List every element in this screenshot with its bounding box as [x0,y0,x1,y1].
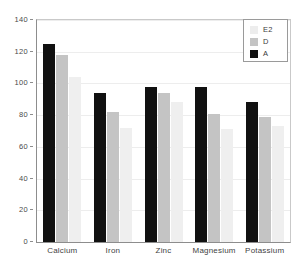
bar-zinc-d [158,93,170,242]
bar-magnesium-a [195,87,207,242]
x-tick-label: Iron [106,246,121,255]
y-tick-mark [30,51,33,52]
y-tick-label: 100 [0,78,28,87]
y-tick-label: 120 [0,46,28,55]
y-tick-label: 140 [0,15,28,24]
legend-item-a[interactable]: A [250,48,287,59]
x-tick-label: Zinc [156,246,172,255]
bar-potassium-a [246,102,258,242]
bar-iron-d [107,112,119,242]
legend-item-d[interactable]: D [250,36,287,47]
bar-calcium-d [56,55,68,242]
bar-group [195,20,233,242]
y-tick-mark [30,82,33,83]
bar-magnesium-d [208,114,220,242]
bar-group [43,20,81,242]
legend-label: A [263,50,268,58]
bar-magnesium-e2 [221,129,233,242]
y-tick-mark [30,209,33,210]
y-tick-mark [30,146,33,147]
y-tick-label: 80 [0,110,28,119]
y-tick-label: 0 [0,237,28,246]
y-tick-mark [30,241,33,242]
x-tick-label: Magnesium [193,246,236,255]
bar-potassium-e2 [272,126,284,242]
legend-item-e2[interactable]: E2 [250,24,287,35]
y-tick-mark [30,19,33,20]
bar-zinc-a [145,87,157,242]
x-tick-label: Potassium [245,246,284,255]
y-tick-mark [30,178,33,179]
legend-swatch-a [250,50,258,58]
bar-group [94,20,132,242]
bar-zinc-e2 [171,102,183,242]
legend-swatch-d [250,38,258,46]
bar-potassium-d [259,117,271,242]
y-tick-label: 20 [0,205,28,214]
y-tick-mark [30,114,33,115]
x-tick-label: Calcium [47,246,77,255]
bar-calcium-a [43,44,55,242]
legend-label: D [263,38,269,46]
x-axis: CalciumIronZincMagnesiumPotassium [37,246,290,266]
bar-group [145,20,183,242]
bar-iron-a [94,93,106,242]
legend: E2DA [243,19,288,62]
bar-calcium-e2 [69,77,81,242]
y-axis: 020406080100120140 [0,19,33,243]
bar-chart: 020406080100120140 CalciumIronZincMagnes… [0,0,304,279]
legend-label: E2 [263,26,273,34]
y-tick-label: 60 [0,141,28,150]
bar-iron-e2 [120,128,132,242]
y-tick-label: 40 [0,173,28,182]
legend-swatch-e2 [250,26,258,34]
